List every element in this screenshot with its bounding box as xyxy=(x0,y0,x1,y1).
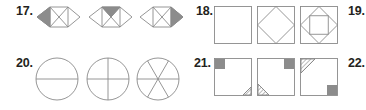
figure-18a-square xyxy=(215,7,252,44)
figure-17a-hexagon xyxy=(37,7,80,27)
figure-21a-square-corners xyxy=(215,59,252,96)
figure-17c-hexagon xyxy=(140,7,183,27)
figure-21c-square-corners xyxy=(301,59,338,96)
figures-canvas xyxy=(0,0,366,110)
figure-18c-square-diamond-square xyxy=(301,7,338,44)
figure-20a-circle-halves xyxy=(36,58,78,100)
figure-18b-square-diamond xyxy=(258,7,295,44)
figure-21b-square-corners xyxy=(258,59,295,96)
figure-20c-circle-sixths xyxy=(137,58,179,100)
figure-20b-circle-quarters xyxy=(87,58,129,100)
figure-17b-hexagon xyxy=(89,7,132,27)
